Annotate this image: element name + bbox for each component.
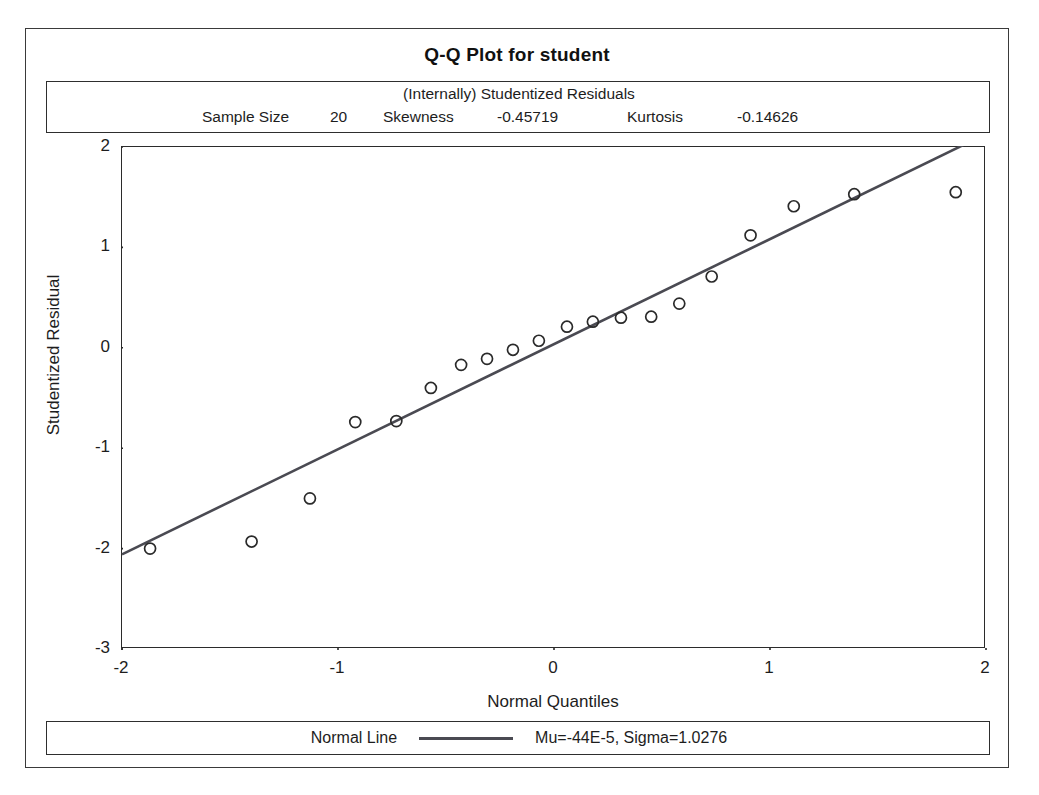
normal-line-swatch-icon — [419, 737, 513, 740]
y-axis-title: Studentized Residual — [44, 225, 64, 485]
x-tick-label: -1 — [307, 658, 367, 678]
data-point — [706, 271, 717, 282]
data-point — [456, 359, 467, 370]
x-axis-title: Normal Quantiles — [121, 692, 985, 712]
data-point — [646, 311, 657, 322]
statistics-panel: (Internally) Studentized Residuals Sampl… — [46, 81, 990, 133]
qq-plot-page: Q-Q Plot for student (Internally) Studen… — [0, 0, 1039, 795]
legend-series-label: Normal Line — [311, 729, 397, 747]
y-tick-label: -2 — [70, 538, 110, 558]
data-point — [561, 321, 572, 332]
plot-canvas — [121, 146, 987, 650]
plot-area — [121, 146, 985, 648]
data-point — [615, 312, 626, 323]
kurtosis-label: Kurtosis — [627, 108, 683, 126]
y-tick-label: 1 — [70, 236, 110, 256]
kurtosis-value: -0.14626 — [737, 108, 798, 126]
data-point-markers — [145, 187, 962, 554]
y-tick-label: -1 — [70, 437, 110, 457]
data-point — [788, 201, 799, 212]
data-point — [533, 335, 544, 346]
tick-marks — [121, 147, 986, 650]
normal-line — [122, 146, 986, 554]
data-point — [507, 344, 518, 355]
skewness-value: -0.45719 — [497, 108, 558, 126]
sample-size-value: 20 — [330, 108, 347, 126]
x-axis-ticks: -2-1012 — [121, 658, 985, 684]
data-point — [145, 543, 156, 554]
legend-params-label: Mu=-44E-5, Sigma=1.0276 — [535, 729, 727, 747]
data-point — [482, 353, 493, 364]
skewness-label: Skewness — [383, 108, 454, 126]
page-title: Q-Q Plot for student — [25, 44, 1009, 66]
data-point — [425, 382, 436, 393]
y-tick-label: 0 — [70, 337, 110, 357]
data-point — [304, 493, 315, 504]
x-tick-label: 2 — [955, 658, 1015, 678]
x-tick-label: 0 — [523, 658, 583, 678]
data-point — [674, 298, 685, 309]
legend-content: Normal Line Mu=-44E-5, Sigma=1.0276 — [47, 722, 991, 754]
y-tick-label: -3 — [70, 638, 110, 658]
data-point — [246, 536, 257, 547]
sample-size-label: Sample Size — [202, 108, 289, 126]
legend-panel: Normal Line Mu=-44E-5, Sigma=1.0276 — [46, 721, 990, 755]
y-tick-label: 2 — [70, 136, 110, 156]
data-point — [745, 230, 756, 241]
x-tick-label: -2 — [91, 658, 151, 678]
y-axis-ticks: 210-1-2-3 — [62, 146, 110, 648]
data-point — [350, 417, 361, 428]
statistics-subtitle: (Internally) Studentized Residuals — [47, 85, 991, 103]
data-point — [950, 187, 961, 198]
x-tick-label: 1 — [739, 658, 799, 678]
